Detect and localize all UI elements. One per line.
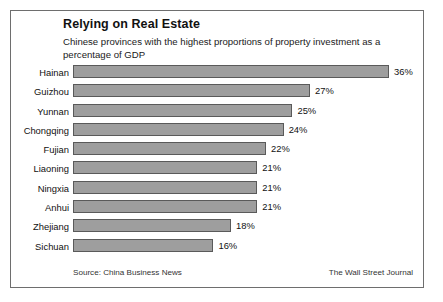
chart-subtitle: Chinese provinces with the highest propo… [63, 36, 388, 61]
source-note: Source: China Business News [73, 267, 182, 279]
bar-category-label: Yunnan [11, 105, 69, 118]
bar-track: 24% [73, 123, 419, 136]
bar-row: Zhejiang18% [11, 219, 423, 238]
publisher-note: The Wall Street Journal [329, 267, 413, 279]
bar-track: 18% [73, 219, 419, 232]
bar-value-label: 24% [289, 123, 308, 136]
bar-row: Anhui21% [11, 200, 423, 219]
bar-category-label: Chongqing [11, 124, 69, 137]
chart-header: Relying on Real Estate Chinese provinces… [63, 17, 415, 61]
bar-fill [73, 239, 213, 252]
chart-title: Relying on Real Estate [63, 17, 415, 32]
bar-value-label: 16% [218, 239, 237, 252]
bar-row: Liaoning21% [11, 161, 423, 180]
bar-category-label: Hainan [11, 66, 69, 79]
bar-row: Yunnan25% [11, 104, 423, 123]
bar-category-label: Ningxia [11, 182, 69, 195]
bar-category-label: Sichuan [11, 240, 69, 253]
bar-category-label: Zhejiang [11, 220, 69, 233]
bar-track: 16% [73, 239, 419, 252]
bar-value-label: 22% [271, 142, 290, 155]
bar-track: 25% [73, 104, 419, 117]
bar-track: 27% [73, 84, 419, 97]
bar-chart-plot-area: Hainan36%Guizhou27%Yunnan25%Chongqing24%… [11, 65, 423, 261]
bar-value-label: 21% [262, 161, 281, 174]
bar-fill [73, 123, 284, 136]
bar-row: Guizhou27% [11, 84, 423, 103]
bar-track: 21% [73, 161, 419, 174]
bar-category-label: Guizhou [11, 85, 69, 98]
bar-fill [73, 200, 257, 213]
bar-track: 36% [73, 65, 419, 78]
bar-value-label: 21% [262, 200, 281, 213]
bar-row: Sichuan16% [11, 239, 423, 258]
bar-fill [73, 181, 257, 194]
bar-category-label: Liaoning [11, 162, 69, 175]
bar-fill [73, 161, 257, 174]
bar-track: 21% [73, 181, 419, 194]
bar-value-label: 36% [394, 65, 413, 78]
bar-fill [73, 65, 389, 78]
bar-row: Ningxia21% [11, 181, 423, 200]
chart-footer: Source: China Business News The Wall Str… [11, 267, 423, 281]
bar-value-label: 25% [297, 104, 316, 117]
bar-value-label: 21% [262, 181, 281, 194]
chart-card: Relying on Real Estate Chinese provinces… [10, 10, 424, 288]
bar-row: Chongqing24% [11, 123, 423, 142]
bar-track: 21% [73, 200, 419, 213]
bar-value-label: 27% [315, 84, 334, 97]
bar-category-label: Fujian [11, 143, 69, 156]
bar-category-label: Anhui [11, 201, 69, 214]
bar-fill [73, 84, 310, 97]
bar-value-label: 18% [236, 219, 255, 232]
bar-fill [73, 104, 292, 117]
bar-row: Fujian22% [11, 142, 423, 161]
bar-track: 22% [73, 142, 419, 155]
bar-row: Hainan36% [11, 65, 423, 84]
bar-fill [73, 219, 231, 232]
bar-fill [73, 142, 266, 155]
